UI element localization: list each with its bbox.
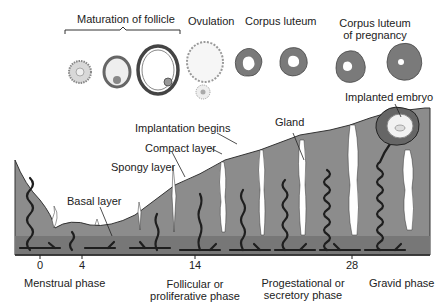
corpus-luteum-pregnancy-label-2: of pregnancy	[343, 29, 407, 41]
compact-layer-label: Compact layer	[145, 142, 216, 154]
day-tick-4: 4	[79, 259, 85, 271]
follicle-stage-3-icon	[138, 46, 178, 94]
day-tick-14: 14	[189, 259, 201, 271]
basal-layer-band	[15, 236, 430, 255]
basal-layer-label: Basal layer	[67, 195, 121, 207]
day-tick-28: 28	[346, 259, 358, 271]
follicle-stage-1-icon	[69, 61, 91, 83]
implantation-begins-label: Implantation begins	[135, 122, 230, 134]
day-tick-0: 0	[37, 259, 43, 271]
corpus-luteum-icon-2	[280, 48, 307, 76]
corpus-luteum-pregnancy-icon-2	[387, 43, 422, 80]
implanted-embryo-label: Implanted embryo	[345, 91, 433, 103]
corpus-luteum-label: Corpus luteum	[245, 15, 317, 27]
spongy-layer-label: Spongy layer	[111, 161, 175, 173]
gland-label: Gland	[275, 116, 304, 128]
corpus-luteum-icon-1	[235, 48, 262, 76]
progestational-phase-label-1: Progestational or	[261, 277, 344, 289]
menstrual-phase-label: Menstrual phase	[24, 277, 105, 289]
maturation-bracket	[65, 27, 180, 34]
implanted-embryo-icon	[376, 107, 419, 145]
follicular-phase-label-2: proliferative phase	[150, 290, 240, 302]
maturation-of-follicle-label: Maturation of follicle	[77, 13, 175, 25]
ovulation-icon	[187, 42, 223, 99]
follicular-phase-label-1: Follicular or	[167, 278, 224, 290]
corpus-luteum-pregnancy-icon-1	[336, 51, 365, 83]
endometrial-cycle-illustration	[0, 0, 447, 305]
corpus-luteum-pregnancy-label-1: Corpus luteum	[339, 17, 411, 29]
progestational-phase-label-2: secretory phase	[264, 289, 342, 301]
follicle-stage-2-icon	[104, 57, 130, 87]
ovulation-label: Ovulation	[188, 15, 234, 27]
gravid-phase-label: Gravid phase	[369, 277, 434, 289]
